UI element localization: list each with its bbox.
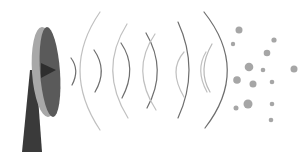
satellite-dish-illustration — [0, 0, 308, 157]
signal-waves — [71, 12, 227, 130]
illustration-canvas — [0, 0, 308, 157]
signal-particles — [231, 27, 298, 123]
